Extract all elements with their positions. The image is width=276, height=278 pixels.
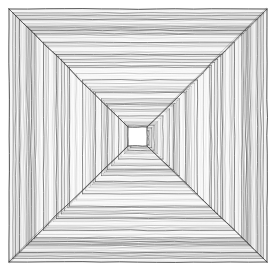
nested-squares-figure (0, 0, 276, 278)
drawing-canvas (0, 0, 276, 278)
inner-vanishing-square (128, 127, 147, 146)
inner-square-group (128, 127, 147, 146)
